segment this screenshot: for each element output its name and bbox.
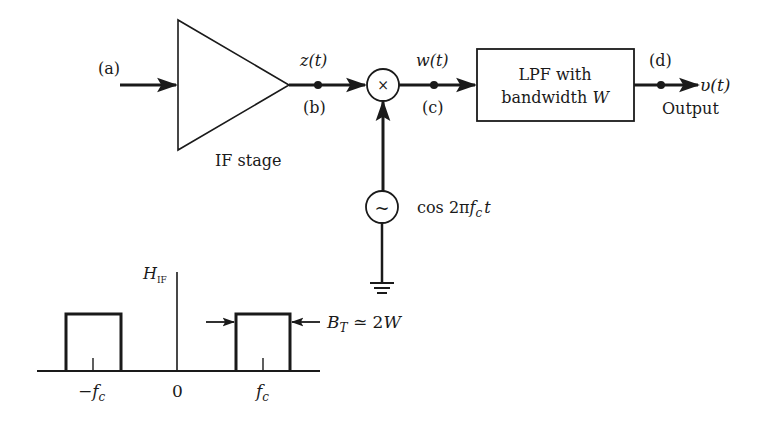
node-b-signal: z(t) [299, 51, 327, 70]
node-b-label: (b) [303, 98, 326, 117]
node-b-dot [314, 81, 322, 89]
bandwidth-label: BT ≃ 2W [326, 312, 402, 335]
diagram-canvas: (a) IF stage z(t) (b) × w(t) (c) LPF wit… [0, 0, 769, 424]
if-spectrum-plot: BT ≃ 2W HIF −fc 0 fc [37, 264, 402, 404]
multiply-icon: × [377, 77, 389, 93]
node-c-dot [430, 81, 438, 89]
neg-fc-label: −fc [78, 381, 106, 404]
zero-label: 0 [172, 381, 183, 401]
node-d-dot [657, 81, 665, 89]
node-c-label: (c) [422, 98, 443, 117]
node-d-label: (d) [649, 51, 672, 70]
oscillator-label: cos 2πfct [417, 198, 491, 220]
if-stage-label: IF stage [215, 151, 281, 170]
output-signal: υ(t) [700, 75, 730, 95]
lpf-label-line1: LPF with [518, 65, 591, 84]
block-diagram: (a) IF stage z(t) (b) × w(t) (c) LPF wit… [0, 0, 769, 424]
if-stage-amplifier-icon [178, 20, 289, 150]
ground-icon [370, 223, 394, 293]
lpf-block [477, 49, 634, 121]
output-label: Output [662, 99, 719, 118]
node-c-signal: w(t) [416, 51, 449, 70]
sine-wave-icon: ~ [374, 197, 389, 218]
lpf-label-line2: bandwidth W [501, 88, 610, 107]
spectrum-axis-label: HIF [142, 264, 167, 285]
input-label: (a) [98, 59, 120, 78]
pos-fc-label: fc [254, 381, 269, 404]
